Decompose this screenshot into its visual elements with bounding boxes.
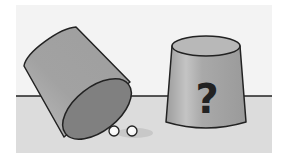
illustration: ? xyxy=(0,0,287,158)
upright-cup: ? xyxy=(166,36,246,128)
question-mark: ? xyxy=(195,76,218,122)
ball-2 xyxy=(127,126,137,136)
ball-1 xyxy=(109,126,119,136)
cup-bottom-top xyxy=(172,36,240,56)
